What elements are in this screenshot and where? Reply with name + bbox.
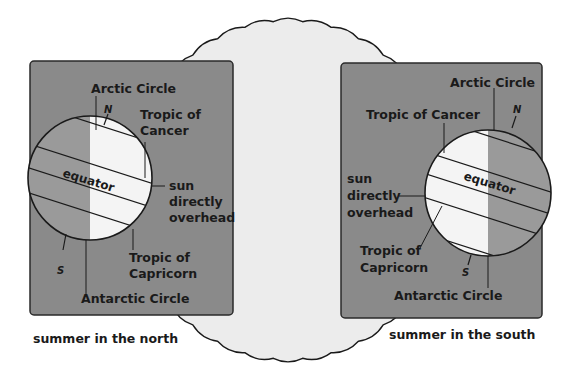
label-arctic-circle: Arctic Circle xyxy=(91,81,176,96)
label-antarctic-circle: Antarctic Circle xyxy=(81,291,189,306)
left-panel: Arctic Circle N Tropic of Cancer equator… xyxy=(20,61,235,315)
label-antarctic-circle: Antarctic Circle xyxy=(394,288,502,303)
right-panel: Arctic Circle N Tropic of Cancer equator… xyxy=(341,63,560,318)
label-tropic-of-capricorn: Tropic of xyxy=(360,243,421,258)
label-north: N xyxy=(513,104,522,115)
label-north: N xyxy=(104,104,113,115)
label-tropic-of-cancer-2: Cancer xyxy=(140,123,189,138)
label-sun-overhead: sun xyxy=(347,171,372,186)
label-tropic-of-cancer: Tropic of Cancer xyxy=(366,107,481,122)
label-sun-overhead-2: directly xyxy=(347,188,401,203)
label-tropic-of-capricorn: Tropic of xyxy=(129,250,190,265)
label-arctic-circle: Arctic Circle xyxy=(450,75,535,90)
label-south: S xyxy=(462,267,469,278)
label-tropic-of-cancer: Tropic of xyxy=(140,107,201,122)
caption-summer-south: summer in the south xyxy=(389,327,535,342)
label-sun-overhead-3: overhead xyxy=(347,205,413,220)
label-tropic-of-capricorn-2: Capricorn xyxy=(360,260,428,275)
seasons-diagram: Arctic Circle N Tropic of Cancer equator… xyxy=(0,0,570,381)
label-sun-overhead-2: directly xyxy=(169,194,223,209)
label-sun-overhead-3: overhead xyxy=(169,210,235,225)
label-south: S xyxy=(57,265,64,276)
label-tropic-of-capricorn-2: Capricorn xyxy=(129,266,197,281)
caption-summer-north: summer in the north xyxy=(33,331,178,346)
label-sun-overhead: sun xyxy=(169,178,194,193)
